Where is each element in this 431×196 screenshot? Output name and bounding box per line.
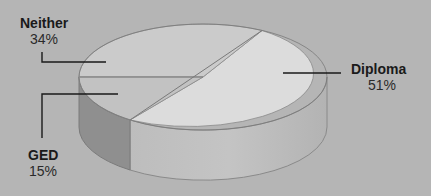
label-neither-name: Neither — [20, 16, 68, 30]
label-diploma-name: Diploma — [351, 62, 406, 76]
label-diploma: Diploma 51% — [351, 62, 406, 92]
label-ged: GED 15% — [28, 148, 58, 178]
label-neither: Neither 34% — [20, 16, 68, 46]
label-diploma-pct: 51% — [368, 78, 406, 92]
label-ged-name: GED — [28, 148, 58, 162]
label-neither-pct: 34% — [30, 32, 68, 46]
label-ged-pct: 15% — [29, 164, 58, 178]
